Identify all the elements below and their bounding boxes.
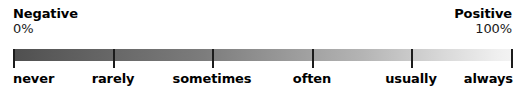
tick-mark-rarely (113, 49, 115, 68)
gradient-bar (13, 49, 512, 61)
anchor-label-never: never (13, 71, 54, 87)
tick-mark-never (13, 49, 15, 68)
tick-mark-often (312, 49, 314, 68)
likert-gradient-scale-figure: Negative 0% Positive 100% never rarely s… (0, 0, 525, 95)
anchor-label-sometimes: sometimes (173, 71, 252, 87)
anchor-label-rarely: rarely (92, 71, 135, 87)
anchor-label-often: often (293, 71, 331, 87)
endpoint-positive-title: Positive (299, 6, 512, 21)
endpoint-positive-value: 100% (299, 21, 512, 36)
endpoint-label-positive: Positive 100% (299, 6, 512, 36)
tick-mark-usually (411, 49, 413, 68)
tick-mark-sometimes (212, 49, 214, 68)
endpoint-negative-value: 0% (13, 21, 213, 36)
anchor-label-usually: usually (385, 71, 437, 87)
endpoint-negative-title: Negative (13, 6, 213, 21)
tick-mark-always (511, 49, 513, 68)
endpoint-label-negative: Negative 0% (13, 6, 213, 36)
anchor-label-always: always (464, 71, 513, 87)
